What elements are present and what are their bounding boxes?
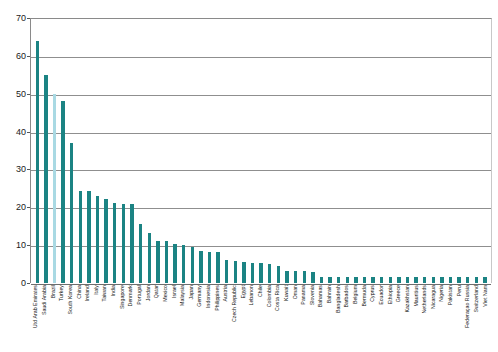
bar[interactable] [268,264,271,283]
x-tick-label: Utd Arab Emirates [34,285,39,328]
x-tick-label: Portugal [137,285,142,305]
bar[interactable] [320,277,323,283]
bar[interactable] [191,247,194,283]
bar[interactable] [380,277,383,283]
bar[interactable] [199,251,202,283]
x-tick-label: Bahrain [327,285,332,303]
bar[interactable] [259,263,262,283]
bar[interactable] [61,101,64,283]
bar[interactable] [328,277,331,283]
bar[interactable] [156,241,159,283]
bar-slot [334,19,343,283]
bar-slot [154,19,163,283]
bar[interactable] [104,199,107,283]
bar[interactable] [173,244,176,283]
bar[interactable] [406,277,409,283]
bar[interactable] [234,261,237,283]
plot-area [30,18,492,283]
bar[interactable] [466,277,469,283]
x-label-slot: Italy [92,285,101,352]
bar[interactable] [432,277,435,283]
y-tick-label: 60 [16,51,26,60]
bar[interactable] [251,263,254,283]
x-tick-label: Israel [172,285,177,298]
bar[interactable] [414,277,417,283]
bar[interactable] [182,245,185,283]
bar-slot [429,19,438,283]
bar[interactable] [277,266,280,283]
x-tick-label: Denmark [129,285,134,306]
bar[interactable] [87,191,90,283]
y-tick-label: 20 [16,203,26,212]
bar[interactable] [475,277,478,283]
bar-chart: 010203040506070 Utd Arab EmiratesSaudi A… [0,0,498,352]
bar[interactable] [225,260,228,283]
y-tick-label: 10 [16,241,26,250]
bar[interactable] [346,277,349,283]
x-label-slot: Germany [196,285,205,352]
bar[interactable] [79,191,82,283]
bar[interactable] [389,277,392,283]
bar[interactable] [457,277,460,283]
bar[interactable] [303,271,306,283]
x-label-slot: Oman [291,285,300,352]
bar[interactable] [96,196,99,283]
bar[interactable] [36,41,39,283]
x-tick-label: Czech Republic [232,285,237,322]
bar-slot [128,19,137,283]
bar-slot [162,19,171,283]
bar[interactable] [208,252,211,283]
bar[interactable] [70,143,73,283]
bar-slot [33,19,42,283]
bar[interactable] [53,94,56,283]
bar[interactable] [44,75,47,283]
bar[interactable] [483,277,486,283]
bar-slot [352,19,361,283]
bars-layer [31,19,491,283]
bar-slot [343,19,352,283]
bar-slot [214,19,223,283]
x-label-slot: Ireland [84,285,93,352]
x-label-slot: India [110,285,119,352]
x-tick-label: Costa Rica [276,285,281,311]
bar[interactable] [449,277,452,283]
bar[interactable] [148,233,151,283]
bar[interactable] [440,277,443,283]
bar[interactable] [423,277,426,283]
bar-slot [317,19,326,283]
bar[interactable] [337,277,340,283]
bar[interactable] [397,277,400,283]
x-tick-label: Bangladesh [336,285,341,313]
bar[interactable] [371,277,374,283]
bar[interactable] [122,204,125,284]
x-tick-label: Saudi Arabia [42,285,47,315]
x-label-slot: Cyprus [369,285,378,352]
x-tick-label: Nicaragua [431,285,436,309]
bar[interactable] [242,262,245,283]
bar[interactable] [285,271,288,283]
x-label-slot: Nigeria [438,285,447,352]
x-tick-label: Mauritius [414,285,419,307]
bar[interactable] [363,277,366,283]
bar[interactable] [354,277,357,283]
x-tick-label: Pakistan [448,285,453,305]
bar[interactable] [113,203,116,283]
x-label-slot: Belgium [352,285,361,352]
bar[interactable] [165,241,168,283]
bar[interactable] [294,271,297,283]
x-label-slot: Bermuda [360,285,369,352]
x-label-slot: Colombia [265,285,274,352]
x-label-slot: Bangladesh [334,285,343,352]
x-label-slot: Barbados [343,285,352,352]
bar[interactable] [130,204,133,283]
bar-slot [265,19,274,283]
y-tick-label: 40 [16,127,26,136]
bar[interactable] [216,252,219,283]
x-label-slot: Turkey [58,285,67,352]
x-label-slot: South Korea [67,285,76,352]
x-tick-label: Lebanon [250,285,255,306]
y-tick-label: 30 [16,165,26,174]
bar[interactable] [311,272,314,283]
x-label-slot: Egypt [239,285,248,352]
bar[interactable] [139,224,142,283]
